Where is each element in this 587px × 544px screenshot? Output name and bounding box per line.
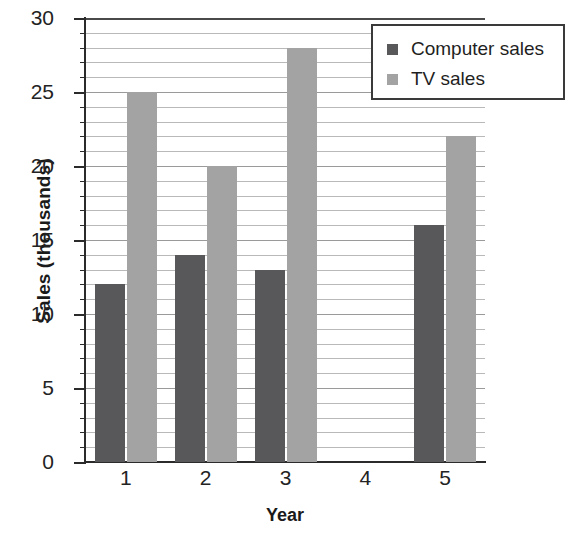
- bar: [446, 136, 476, 462]
- y-axis-ticks: [72, 18, 86, 462]
- bar: [255, 270, 285, 462]
- x-axis-tick-label: 2: [166, 466, 246, 490]
- bar-chart: Sales (thousands) 051015202530 12345 Yea…: [0, 0, 587, 544]
- y-axis-tick: [74, 462, 86, 464]
- x-axis-tick-label: 4: [325, 466, 405, 490]
- x-axis-tick-label: 3: [246, 466, 326, 490]
- x-axis-tick-label: 5: [405, 466, 485, 490]
- legend-swatch-tv-sales: [387, 74, 398, 85]
- bar: [127, 92, 157, 462]
- bar: [207, 166, 237, 462]
- y-axis-tick-label: 20: [31, 155, 54, 176]
- bar: [175, 255, 205, 462]
- y-axis-tick: [74, 166, 86, 168]
- chart-legend: Computer sales TV sales: [371, 24, 565, 100]
- y-axis-tick-label: 30: [31, 7, 54, 28]
- y-axis-tick: [74, 314, 86, 316]
- y-axis-tick-labels: 051015202530: [0, 18, 72, 462]
- y-axis-tick-label: 0: [42, 451, 54, 472]
- y-axis-tick: [74, 18, 86, 20]
- y-axis-tick-label: 10: [31, 303, 54, 324]
- y-axis-tick: [74, 240, 86, 242]
- legend-item-tv-sales: TV sales: [387, 64, 563, 94]
- bar: [287, 48, 317, 462]
- legend-swatch-computer-sales: [387, 44, 398, 55]
- y-axis-tick: [74, 388, 86, 390]
- legend-label-computer-sales: Computer sales: [411, 38, 544, 60]
- bar: [414, 225, 444, 462]
- bar: [95, 284, 125, 462]
- y-axis-tick-label: 15: [31, 229, 54, 250]
- x-axis-tick-labels: 12345: [86, 466, 485, 500]
- legend-label-tv-sales: TV sales: [411, 68, 485, 90]
- x-axis-tick-label: 1: [86, 466, 166, 490]
- y-axis-tick-label: 25: [31, 81, 54, 102]
- y-axis-tick: [74, 92, 86, 94]
- x-axis-title: Year: [85, 505, 485, 526]
- legend-item-computer-sales: Computer sales: [387, 34, 563, 64]
- y-axis-tick-label: 5: [42, 377, 54, 398]
